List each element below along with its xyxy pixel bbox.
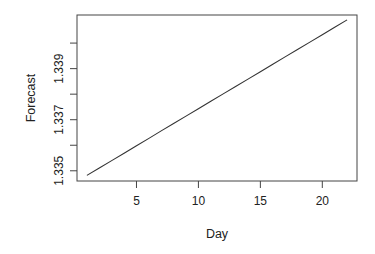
x-tick-label: 20 bbox=[316, 194, 330, 208]
x-axis: 5101520 bbox=[133, 181, 329, 208]
y-tick-label: 1.339 bbox=[52, 53, 66, 83]
y-tick-label: 1.335 bbox=[52, 155, 66, 185]
y-axis: 1.3351.3371.339 bbox=[52, 43, 77, 186]
y-axis-label: Forecast bbox=[24, 73, 38, 122]
chart: 5101520 1.3351.3371.339 Day Forecast bbox=[0, 0, 375, 254]
forecast-line bbox=[87, 20, 347, 176]
y-tick-label: 1.337 bbox=[52, 104, 66, 134]
x-tick-label: 15 bbox=[254, 194, 268, 208]
x-tick-label: 10 bbox=[192, 194, 206, 208]
x-tick-label: 5 bbox=[133, 194, 140, 208]
x-axis-label: Day bbox=[206, 227, 229, 241]
